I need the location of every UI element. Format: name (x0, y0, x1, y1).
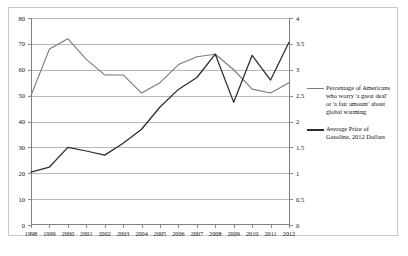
x-axis-tick (271, 225, 272, 228)
y-axis-right-tick (290, 70, 293, 71)
y-axis-right-tick (290, 96, 293, 97)
x-axis-tick (86, 225, 87, 228)
y-axis-right-tick (290, 147, 293, 148)
y-axis-right-tick (290, 173, 293, 174)
series-line-1 (31, 39, 289, 96)
y-axis-right-tick-label: 1 (296, 170, 320, 177)
x-axis-tick (252, 225, 253, 228)
y-axis-left-tick-label: 70 (3, 40, 25, 47)
y-axis-left-tick-label: 10 (3, 196, 25, 203)
x-axis-tick (68, 225, 69, 228)
y-axis-left-tick-label: 20 (3, 170, 25, 177)
y-axis-right-tick (290, 225, 293, 226)
y-axis-left-tick-label: 0 (3, 222, 25, 229)
y-axis-left-tick-label: 30 (3, 144, 25, 151)
x-axis-tick (105, 225, 106, 228)
series-line-2 (31, 42, 289, 172)
y-axis-right-tick (290, 199, 293, 200)
y-axis-left-tick (28, 225, 31, 226)
x-axis-tick (123, 225, 124, 228)
y-axis-right-tick-label: 0 (296, 222, 320, 229)
chart-figure: 01020304050607080 00.511.522.533.54 1998… (0, 0, 408, 256)
legend-item: Percentage of Americans who worry 'a gre… (307, 84, 393, 116)
x-axis-tick (234, 225, 235, 228)
x-axis-tick (49, 225, 50, 228)
y-axis-right-tick-label: 4 (296, 15, 320, 22)
x-axis-tick (160, 225, 161, 228)
chart-legend: Percentage of Americans who worry 'a gre… (307, 84, 393, 151)
legend-line-swatch (307, 129, 324, 130)
y-axis-left-tick-label: 80 (3, 15, 25, 22)
legend-label: Average Price of Gasoline, 2012 Dollars (326, 125, 393, 141)
y-axis-left-tick-label: 60 (3, 66, 25, 73)
plot-area (31, 18, 290, 225)
x-axis-tick (142, 225, 143, 228)
x-axis-tick (215, 225, 216, 228)
series-lines (31, 18, 290, 225)
x-axis-tick (197, 225, 198, 228)
legend-item: Average Price of Gasoline, 2012 Dollars (307, 125, 393, 141)
y-axis-left-tick-label: 50 (3, 92, 25, 99)
y-axis-right-tick-label: 3 (296, 66, 320, 73)
legend-label: Percentage of Americans who worry 'a gre… (326, 84, 393, 116)
y-axis-left-tick-label: 40 (3, 118, 25, 125)
y-axis-right-tick-label: 3.5 (296, 40, 320, 47)
legend-line-swatch (307, 88, 324, 89)
x-axis-tick (31, 225, 32, 228)
y-axis-right-tick (290, 44, 293, 45)
x-axis-tick (178, 225, 179, 228)
y-axis-right-tick (290, 18, 293, 19)
y-axis-right-tick-label: 0.5 (296, 196, 320, 203)
y-axis-right-tick (290, 122, 293, 123)
x-axis-tick-label: 2012 (277, 230, 301, 237)
